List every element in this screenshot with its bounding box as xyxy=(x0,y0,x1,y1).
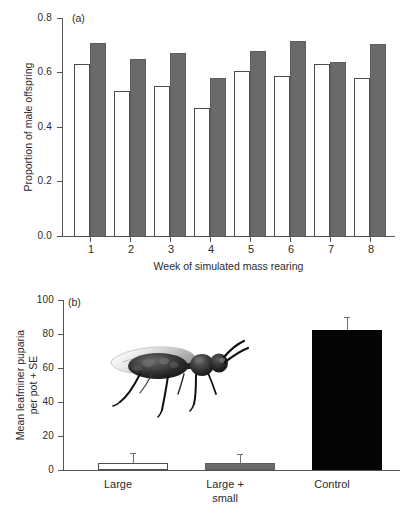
panel-b-xtick-label-small: small xyxy=(175,492,275,505)
bar-large xyxy=(98,463,168,470)
bar-control xyxy=(312,330,382,470)
panel-b-ytick-label-40: 40 xyxy=(32,396,54,407)
panel-b-ytick-label-20: 20 xyxy=(32,430,54,441)
panel-b-xtick-label-large-plus: Large + xyxy=(175,478,275,491)
panel-b: (b) Mean leafminer puparia per pot + SE … xyxy=(0,0,411,522)
bar-large-plus-small xyxy=(205,463,275,470)
errorbar-large xyxy=(133,453,134,463)
errorbar-cap-large-plus-small xyxy=(237,454,243,455)
errorbar-large-plus-small xyxy=(240,454,241,463)
errorbar-cap-control xyxy=(344,317,350,318)
panel-b-ytick-label-100: 100 xyxy=(28,294,54,305)
panel-b-xtick-label-control: Control xyxy=(282,478,382,490)
panel-b-ytick-label-60: 60 xyxy=(32,362,54,373)
panel-b-xtick-label-large: Large xyxy=(68,478,168,490)
figure-root: (a) Proportion of male offspring 0.0 0.2… xyxy=(0,0,411,522)
panel-b-y-axis-title-line2: per pot + SE xyxy=(27,300,39,470)
errorbar-cap-large xyxy=(130,453,136,454)
panel-b-ytick-label-80: 80 xyxy=(32,328,54,339)
errorbar-control xyxy=(347,317,348,330)
panel-b-plot-area xyxy=(63,300,400,471)
panel-b-y-axis-title-line1: Mean leafminer puparia xyxy=(14,300,26,470)
panel-b-ytick-label-0: 0 xyxy=(32,464,54,475)
